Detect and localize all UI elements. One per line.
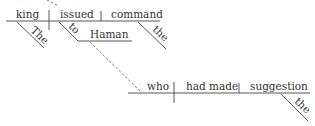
word-relative-verb: had made	[186, 80, 238, 92]
word-relative-object-modifier: the	[293, 95, 314, 116]
word-direct-object-modifier: the	[151, 23, 172, 44]
word-subject: king	[16, 8, 39, 20]
word-preposition: to	[67, 20, 83, 36]
dashed-connector-relative	[90, 42, 141, 92]
word-relative-subject: who	[147, 80, 169, 92]
word-indirect-object: Haman	[90, 28, 129, 40]
word-relative-object: suggestion	[250, 80, 308, 92]
sentence-diagram: king issued command The to Haman the who…	[0, 0, 315, 126]
word-verb: issued	[60, 8, 94, 20]
dashed-connector-top	[47, 0, 57, 5]
word-subject-modifier: The	[29, 24, 52, 47]
word-direct-object: command	[111, 8, 163, 20]
